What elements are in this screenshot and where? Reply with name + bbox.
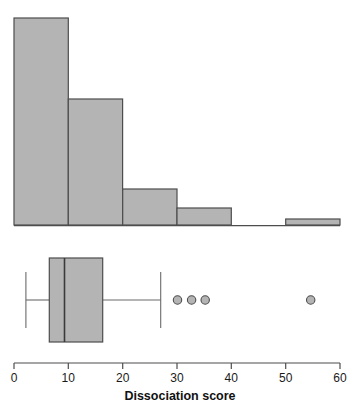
histogram-boxplot-svg: 0 10 20 30 40 50 60 Dissociation score	[0, 0, 355, 407]
x-axis: 0 10 20 30 40 50 60 Dissociation score	[11, 363, 347, 403]
x-axis-title: Dissociation score	[124, 389, 235, 403]
boxplot-iqr-box	[49, 258, 102, 342]
boxplot-outlier-point	[307, 296, 315, 304]
x-axis-tick-label-60: 60	[333, 371, 347, 385]
x-axis-tick-label-50: 50	[279, 371, 293, 385]
boxplot-outlier-point	[201, 296, 209, 304]
histogram-bar-0-10	[14, 18, 68, 225]
x-axis-tick-label-0: 0	[11, 371, 18, 385]
boxplot-outlier-point	[173, 296, 181, 304]
histogram-panel	[14, 18, 340, 226]
x-axis-tick-label-30: 30	[170, 371, 184, 385]
histogram-bar-50-60	[286, 219, 340, 225]
statistics-figure: 0 10 20 30 40 50 60 Dissociation score	[0, 0, 355, 407]
histogram-bar-10-20	[68, 99, 122, 225]
boxplot-panel	[26, 258, 315, 342]
histogram-bar-20-30	[123, 189, 177, 225]
x-axis-tick-label-40: 40	[225, 371, 239, 385]
boxplot-outlier-point	[187, 296, 195, 304]
histogram-bar-30-40	[177, 208, 231, 225]
x-axis-tick-label-20: 20	[116, 371, 130, 385]
x-axis-tick-label-10: 10	[62, 371, 76, 385]
